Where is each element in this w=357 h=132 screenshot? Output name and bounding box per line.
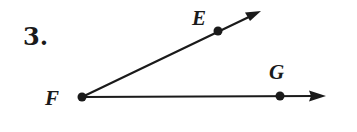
- ray-fe-line: [82, 16, 252, 98]
- point-e-label: E: [191, 6, 206, 30]
- point-g-dot: [276, 92, 285, 101]
- ray-fg-arrowhead-icon: [309, 91, 326, 102]
- point-e-dot: [214, 27, 223, 36]
- vertex-f-dot: [78, 93, 87, 102]
- ray-fe: [82, 11, 261, 97]
- ray-fe-arrowhead-icon: [245, 11, 261, 21]
- ray-fg: [82, 91, 326, 102]
- vertex-f-label: F: [44, 86, 59, 110]
- point-g-label: G: [269, 60, 284, 84]
- point-e: E: [191, 6, 223, 36]
- angle-diagram: 3. F E G: [0, 0, 357, 132]
- point-g: G: [269, 60, 285, 101]
- vertex-f: F: [44, 86, 87, 110]
- problem-number: 3.: [23, 22, 48, 51]
